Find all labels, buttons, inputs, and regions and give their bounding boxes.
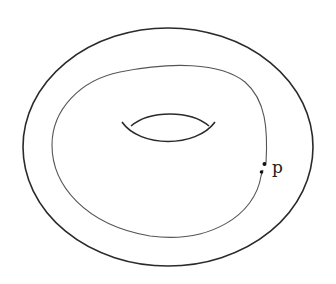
closed-curve [52, 65, 267, 237]
point-p-marker [263, 162, 267, 166]
torus-outer-boundary [23, 28, 313, 266]
point-p-label: p [272, 157, 283, 177]
torus-hole-upper-arc [131, 114, 209, 126]
torus-diagram [0, 0, 336, 284]
point-p-marker-secondary [260, 170, 264, 174]
torus-hole-lower-arc [122, 122, 215, 142]
